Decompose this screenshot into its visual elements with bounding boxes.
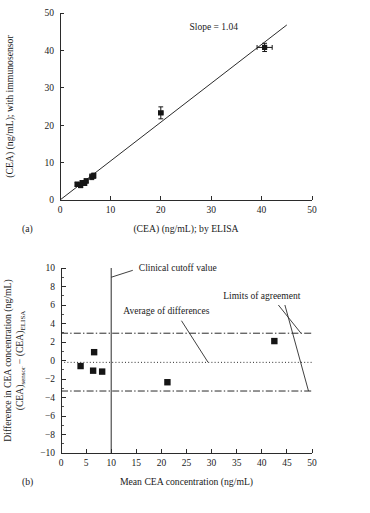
panel-b-y-tick-label: 0 <box>50 356 55 366</box>
panel-b-data-point <box>271 338 277 344</box>
panel-a-slope-annotation: Slope = 1.04 <box>190 22 239 32</box>
panel-a-x-axis-label: (CEA) (ng/mL); by ELISA <box>133 223 238 235</box>
panel-b-bland-altman-plot: 05101520253035404550−10−8−6−4−20246810Cl… <box>0 252 370 502</box>
panel-b-x-tick-label: 0 <box>59 458 64 468</box>
panel-b-y-tick-label: −10 <box>40 448 55 458</box>
panel-a-y-tick-label: 10 <box>45 158 55 168</box>
panel-a-data-point <box>158 110 163 115</box>
panel-b-y-tick-label: −4 <box>45 393 55 403</box>
panel-b-x-tick-label: 25 <box>182 458 192 468</box>
panel-b-svg: 05101520253035404550−10−8−6−4−20246810Cl… <box>0 252 370 502</box>
panel-b-leader-lower-loa <box>285 305 309 391</box>
panel-a-y-tick-label: 20 <box>45 121 55 131</box>
panel-b-data-point <box>164 379 170 385</box>
panel-b-x-tick-label: 45 <box>282 458 292 468</box>
panel-a-data-point <box>262 45 267 50</box>
panel-b-x-tick-label: 5 <box>84 458 89 468</box>
panel-b-y-tick-label: −6 <box>45 411 55 421</box>
panel-a-y-tick-label: 0 <box>49 195 54 205</box>
panel-b-y-tick-label: 4 <box>50 319 55 329</box>
panel-b-y-tick-label: −8 <box>45 430 55 440</box>
panel-b-y-tick-label: 2 <box>50 337 55 347</box>
panel-b-ylabel-cea-sensor: (CEA) <box>14 385 26 411</box>
panel-b-ylabel-sub-sensor: sensor <box>19 366 27 385</box>
panel-b-y-tick-label: 6 <box>50 300 55 310</box>
panel-a-axes <box>60 13 312 200</box>
panel-a-x-tick-label: 10 <box>106 205 116 215</box>
panel-b-y-tick-label: 10 <box>46 263 56 273</box>
panel-b-annotation-limits-of-agreement-label: Limits of agreement <box>223 291 300 301</box>
panel-a-x-tick-label: 30 <box>206 205 216 215</box>
panel-b-x-tick-label: 10 <box>106 458 116 468</box>
panel-b-y-tick-label: −2 <box>45 374 55 384</box>
panel-b-leader-average-of-differences <box>181 321 208 363</box>
panel-b-data-point <box>91 349 97 355</box>
panel-b-annotation-clinical-cutoff-label: Clinical cutoff value <box>139 263 217 273</box>
panel-a-x-tick-label: 0 <box>58 205 63 215</box>
panel-b-leader-upper-loa <box>278 305 301 333</box>
panel-a-y-tick-label: 30 <box>45 83 55 93</box>
panel-b-data-point <box>99 368 105 374</box>
panel-b-annotation-average-of-differences-label: Average of differences <box>123 306 209 316</box>
panel-a-tag: (a) <box>22 223 33 235</box>
panel-b-x-tick-label: 20 <box>157 458 167 468</box>
figure-container: 0102030405001020304050Slope = 1.04(CEA) … <box>0 0 370 513</box>
panel-a-x-tick-label: 20 <box>156 205 166 215</box>
panel-b-x-axis-label: Mean CEA concentration (ng/mL) <box>120 476 253 488</box>
panel-a-y-axis-label: (CEA) (ng/mL); with immunosensor <box>4 35 16 178</box>
panel-b-data-point <box>90 367 96 373</box>
panel-b-leader-clinical-cutoff <box>111 270 133 277</box>
panel-b-y-tick-label: 8 <box>50 282 55 292</box>
panel-b-y-axis-label-line2: (CEA)sensor − (CEA)ELISA <box>14 311 27 411</box>
panel-a-data-point <box>84 178 89 183</box>
panel-a-y-tick-label: 50 <box>45 8 55 18</box>
panel-b-data-point <box>77 363 83 369</box>
panel-a-y-tick-label: 40 <box>45 46 55 56</box>
panel-a-x-tick-label: 50 <box>307 205 317 215</box>
panel-a-scatter-immunosensor-vs-elisa: 0102030405001020304050Slope = 1.04(CEA) … <box>0 0 370 250</box>
panel-a-svg: 0102030405001020304050Slope = 1.04(CEA) … <box>0 0 370 250</box>
panel-b-x-tick-label: 50 <box>307 458 317 468</box>
panel-b-ylabel-minus-cea: − (CEA) <box>14 330 26 366</box>
panel-a-data-point <box>91 173 96 178</box>
panel-b-x-tick-label: 15 <box>132 458 142 468</box>
panel-b-x-tick-label: 40 <box>257 458 267 468</box>
panel-b-tag: (b) <box>22 476 33 488</box>
panel-b-x-tick-label: 35 <box>232 458 242 468</box>
panel-a-x-tick-label: 40 <box>257 205 267 215</box>
panel-b-y-axis-label-line1: Difference in CEA concentration (ng/mL) <box>2 279 14 441</box>
panel-b-ylabel-sub-elisa: ELISA <box>19 311 27 331</box>
panel-b-x-tick-label: 30 <box>207 458 217 468</box>
